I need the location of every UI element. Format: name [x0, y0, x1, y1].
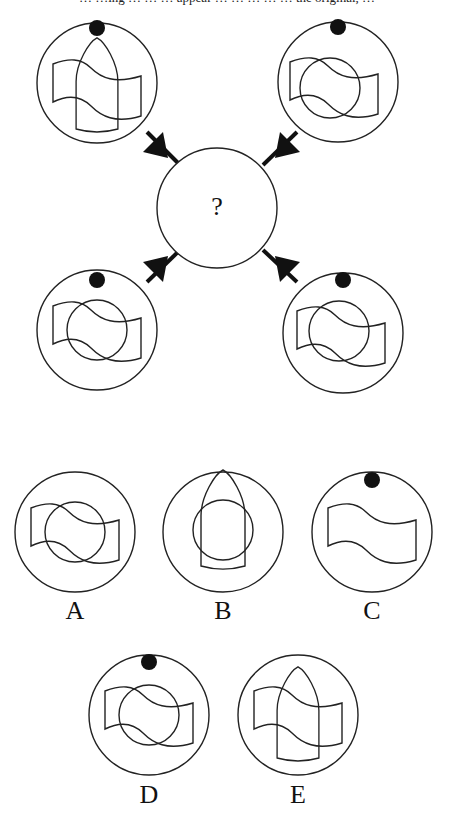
puzzle-figure [0, 0, 454, 825]
dot-icon [330, 19, 346, 35]
figure-bottom-right [283, 272, 403, 393]
connector-bottom-right [263, 250, 300, 282]
dot-icon [335, 272, 351, 288]
option-label-b[interactable]: B [203, 596, 243, 626]
center-question-mark: ? [197, 192, 237, 222]
option-c-figure[interactable] [312, 472, 432, 592]
dot-icon [89, 272, 105, 288]
option-a-figure[interactable] [15, 472, 135, 592]
dot-icon [364, 472, 380, 488]
connector-top-right [263, 132, 300, 165]
option-b-figure[interactable] [163, 470, 283, 592]
option-d-figure[interactable] [89, 654, 209, 775]
option-label-d[interactable]: D [129, 780, 169, 810]
figure-bottom-left [37, 270, 157, 390]
option-label-e[interactable]: E [278, 780, 318, 810]
option-e-figure[interactable] [238, 655, 358, 775]
option-label-c[interactable]: C [352, 596, 392, 626]
figure-top-left [37, 20, 157, 143]
dot-icon [141, 654, 157, 670]
connector-top-left [143, 132, 180, 165]
option-label-a[interactable]: A [55, 596, 95, 626]
dot-icon [89, 20, 105, 36]
figure-top-right [278, 19, 398, 142]
connector-bottom-left [143, 250, 180, 282]
